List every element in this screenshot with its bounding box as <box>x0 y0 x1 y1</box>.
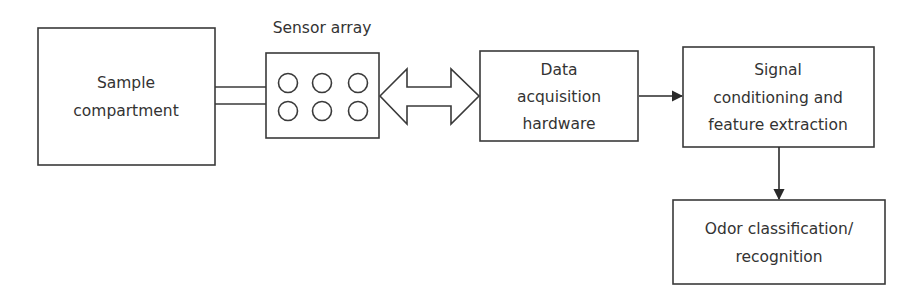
odor-classification-label-line2: recognition <box>735 248 822 266</box>
sample-compartment-label-line2: compartment <box>73 102 178 120</box>
bidirectional-arrow-icon <box>380 69 479 124</box>
data-acquisition-label-line3: hardware <box>522 115 595 133</box>
e-nose-block-diagram: Sample compartment Sensor array Data acq… <box>0 0 920 301</box>
sample-compartment-node: Sample compartment <box>38 28 215 165</box>
data-acquisition-label-line1: Data <box>540 61 577 79</box>
sensor-array-box <box>266 53 379 138</box>
odor-classification-label-line1: Odor classification/ <box>705 220 854 238</box>
sample-compartment-box <box>38 28 215 165</box>
sensor-array-label: Sensor array <box>273 19 372 37</box>
data-acquisition-node: Data acquisition hardware <box>480 51 638 141</box>
sensor-array-node: Sensor array <box>266 19 379 138</box>
signal-conditioning-node: Signal conditioning and feature extracti… <box>683 47 874 147</box>
sample-compartment-label-line1: Sample <box>97 74 155 92</box>
signal-conditioning-label-line1: Signal <box>754 61 802 79</box>
odor-classification-node: Odor classification/ recognition <box>673 200 885 284</box>
odor-classification-box <box>673 200 885 284</box>
signal-conditioning-label-line2: conditioning and <box>713 89 843 107</box>
data-acquisition-label-line2: acquisition <box>517 88 601 106</box>
signal-conditioning-label-line3: feature extraction <box>708 116 848 134</box>
pipe-connector <box>215 87 266 104</box>
